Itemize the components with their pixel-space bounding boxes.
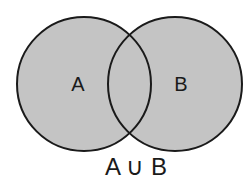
- union-caption: A ∪ B: [105, 153, 167, 180]
- set-a-label: A: [71, 73, 85, 95]
- set-b-label: B: [174, 73, 187, 95]
- venn-diagram: A B A ∪ B: [0, 0, 247, 181]
